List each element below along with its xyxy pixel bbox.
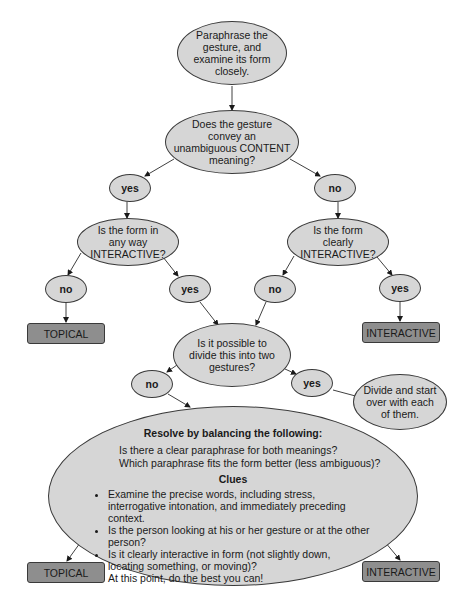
- decision-line: Is the form: [300, 224, 375, 236]
- outcome-topical: TOPICAL: [27, 323, 105, 344]
- answer-no: no: [45, 275, 87, 303]
- action-line: over with each: [364, 396, 437, 408]
- decision-line: convey an: [174, 130, 291, 142]
- answer-yes: yes: [109, 174, 151, 202]
- clues-list: Examine the precise words, including str…: [86, 488, 408, 584]
- clue-item: Examine the precise words, including str…: [108, 488, 353, 524]
- decision-line: meaning?: [174, 154, 291, 166]
- clues-title: Clues: [49, 473, 417, 485]
- decision-divide-gestures: Is it possible to divide this into two g…: [173, 323, 291, 387]
- decision-line: gestures?: [189, 361, 275, 373]
- decision-line: clearly: [300, 236, 375, 248]
- start-line: examine its form: [193, 53, 270, 65]
- answer-yes: yes: [291, 369, 333, 397]
- answer-yes: yes: [379, 274, 421, 302]
- decision-content-meaning: Does the gesture convey an unambiguous C…: [165, 110, 299, 174]
- answer-yes: yes: [169, 275, 211, 303]
- answer-no: no: [254, 275, 296, 303]
- decision-line: INTERACTIVE?: [300, 248, 375, 260]
- outcome-topical: TOPICAL: [27, 562, 105, 583]
- decision-line: INTERACTIVE?: [90, 248, 165, 260]
- resolve-question: Which paraphrase fits the form better (l…: [119, 457, 380, 469]
- decision-any-way-interactive: Is the form in any way INTERACTIVE?: [77, 218, 179, 266]
- decision-line: Is the form in: [90, 224, 165, 236]
- decision-line: any way: [90, 236, 165, 248]
- clue-item: Is the person looking at his or her gest…: [108, 524, 408, 548]
- clue-item: Is it clearly interactive in form (not s…: [108, 548, 353, 572]
- resolve-question: Is there a clear paraphrase for both mea…: [119, 444, 337, 456]
- decision-clearly-interactive: Is the form clearly INTERACTIVE?: [287, 218, 389, 266]
- decision-line: Does the gesture: [174, 118, 291, 130]
- action-line: Divide and start: [364, 384, 437, 396]
- start-line: gesture, and: [193, 41, 270, 53]
- outcome-interactive: INTERACTIVE: [362, 322, 440, 343]
- answer-no: no: [131, 370, 173, 398]
- action-line: of them.: [364, 408, 437, 420]
- resolve-title: Resolve by balancing the following:: [49, 427, 417, 439]
- start-line: closely.: [193, 65, 270, 77]
- start-line: Paraphrase the: [193, 29, 270, 41]
- decision-line: unambiguous CONTENT: [174, 142, 291, 154]
- outcome-interactive: INTERACTIVE: [362, 561, 440, 582]
- decision-line: Is it possible to: [189, 337, 275, 349]
- start-node: Paraphrase the gesture, and examine its …: [177, 21, 287, 85]
- decision-line: divide this into two: [189, 349, 275, 361]
- answer-no: no: [314, 174, 356, 202]
- action-divide-start-over: Divide and start over with each of them.: [353, 374, 447, 430]
- resolve-node: Resolve by balancing the following: Is t…: [48, 406, 418, 586]
